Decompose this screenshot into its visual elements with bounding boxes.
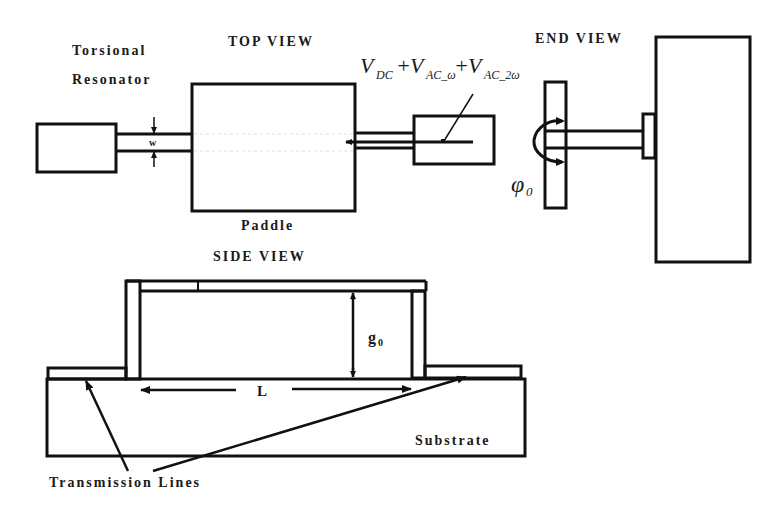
svg-text:DC: DC bbox=[375, 68, 394, 82]
svg-text:+: + bbox=[454, 53, 469, 78]
voltage-label: V DC + V AC_ω + V AC_2ω bbox=[360, 53, 520, 82]
svg-text:0: 0 bbox=[378, 337, 385, 348]
svg-text:V: V bbox=[468, 53, 484, 78]
svg-text:g: g bbox=[368, 329, 378, 347]
substrate-label: Substrate bbox=[415, 433, 491, 448]
width-label: w bbox=[149, 137, 158, 148]
svg-text:φ: φ bbox=[511, 171, 524, 197]
transmission-line-left bbox=[48, 368, 126, 379]
svg-text:AC_ω: AC_ω bbox=[425, 68, 456, 82]
transmission-line-right bbox=[425, 366, 521, 378]
transmission-lines-label: Transmission Lines bbox=[49, 475, 201, 490]
svg-text:V: V bbox=[360, 53, 376, 78]
torsional-resonator-diagram: Torsional Resonator TOP VIEW END VIEW SI… bbox=[0, 0, 782, 518]
top-view-title: TOP VIEW bbox=[228, 34, 314, 49]
side-view-title: SIDE VIEW bbox=[213, 249, 306, 264]
svg-text:AC_2ω: AC_2ω bbox=[483, 68, 520, 82]
right-anchor bbox=[414, 116, 494, 164]
svg-text:+: + bbox=[396, 53, 411, 78]
end-view-title: END VIEW bbox=[535, 31, 623, 46]
paddle-label: Paddle bbox=[241, 218, 294, 233]
torsional-label: Torsional bbox=[72, 43, 146, 58]
paddle-end bbox=[545, 82, 566, 208]
svg-text:V: V bbox=[410, 53, 426, 78]
angle-label: φ 0 bbox=[511, 171, 533, 199]
top-view bbox=[37, 84, 494, 211]
gap-label: g 0 bbox=[368, 329, 385, 348]
end-anchor bbox=[656, 37, 750, 262]
resonator-label: Resonator bbox=[72, 72, 151, 87]
end-view bbox=[534, 37, 750, 262]
length-label: L bbox=[257, 383, 269, 399]
left-anchor bbox=[37, 124, 116, 172]
paddle-top bbox=[192, 84, 355, 211]
svg-text:0: 0 bbox=[526, 184, 533, 199]
